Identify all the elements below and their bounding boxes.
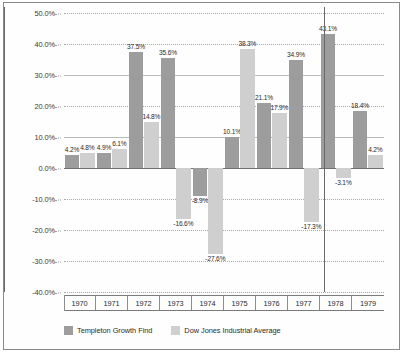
x-axis-tick-label: 1972 bbox=[135, 299, 151, 308]
legend-swatch bbox=[171, 326, 180, 335]
bar[interactable]: 4.9% bbox=[97, 153, 112, 168]
bar-group: 21.1%17.9% bbox=[256, 13, 288, 292]
bar-group: 34.9%-17.3% bbox=[288, 13, 320, 292]
bar-value-label: 37.5% bbox=[127, 43, 145, 50]
bar-value-label: -17.3% bbox=[301, 223, 321, 230]
y-axis-tick-label: 0.0% bbox=[39, 164, 55, 173]
bar-value-label: 4.8% bbox=[80, 144, 94, 151]
y-axis-tick-label: 10.0% bbox=[35, 133, 55, 142]
bar-value-label: 35.6% bbox=[159, 49, 177, 56]
x-axis-tick-1978: 1978 bbox=[320, 296, 352, 310]
bar[interactable]: 18.4% bbox=[353, 111, 368, 168]
legend-swatch bbox=[64, 326, 73, 335]
bar[interactable]: 14.8% bbox=[144, 122, 159, 168]
x-axis-tick-1970: 1970 bbox=[64, 296, 96, 310]
bar-group: 37.5%14.8% bbox=[128, 13, 160, 292]
y-tick-dash bbox=[55, 199, 61, 200]
legend-item[interactable]: Templeton Growth Find bbox=[64, 326, 152, 335]
bar[interactable]: 10.1% bbox=[225, 137, 240, 168]
y-axis-tick-label: 40.0% bbox=[35, 40, 55, 49]
right-axis-spine bbox=[324, 7, 325, 292]
bar-value-label: 21.1% bbox=[255, 94, 273, 101]
bar-group: 18.4%4.2% bbox=[352, 13, 384, 292]
y-tick-dash bbox=[55, 75, 61, 76]
bar[interactable]: 38.3% bbox=[240, 49, 255, 168]
y-tick-dash bbox=[55, 44, 61, 45]
y-axis-tick-label: -30.0% bbox=[32, 257, 55, 266]
bar-value-label: 43.1% bbox=[319, 25, 337, 32]
bar[interactable]: 35.6% bbox=[161, 58, 176, 168]
gridline bbox=[64, 292, 384, 293]
legend-label: Dow Jones Industrial Average bbox=[184, 326, 280, 335]
y-tick-dash bbox=[55, 261, 61, 262]
x-axis-tick-1975: 1975 bbox=[224, 296, 256, 310]
legend-item[interactable]: Dow Jones Industrial Average bbox=[171, 326, 280, 335]
bar[interactable]: -17.3% bbox=[304, 168, 319, 222]
bar[interactable]: -8.9% bbox=[193, 168, 208, 196]
bar-group: 10.1%38.3% bbox=[224, 13, 256, 292]
bar[interactable]: 37.5% bbox=[129, 52, 144, 168]
bar-value-label: 14.8% bbox=[142, 113, 160, 120]
y-tick-dash bbox=[55, 168, 61, 169]
bar-group: 4.2%4.8% bbox=[64, 13, 96, 292]
bar[interactable]: 4.2% bbox=[65, 155, 80, 168]
bar-value-label: -3.1% bbox=[335, 179, 351, 186]
x-axis-tick-label: 1977 bbox=[295, 299, 311, 308]
x-axis-tick-1974: 1974 bbox=[192, 296, 224, 310]
bar-value-label: 18.4% bbox=[351, 102, 369, 109]
x-axis-tick-1977: 1977 bbox=[288, 296, 320, 310]
x-axis-tick-1972: 1972 bbox=[128, 296, 160, 310]
y-tick-dash bbox=[55, 106, 61, 107]
bar[interactable]: 34.9% bbox=[289, 60, 304, 168]
bar-value-label: -16.6% bbox=[173, 220, 193, 227]
x-axis-tick-label: 1978 bbox=[327, 299, 343, 308]
y-axis-tick-label: -40.0% bbox=[32, 288, 55, 297]
bar[interactable]: 43.1% bbox=[321, 34, 336, 168]
y-axis-spine bbox=[4, 7, 5, 292]
y-axis-tick-label: 20.0% bbox=[35, 102, 55, 111]
chart-legend: Templeton Growth FindDow Jones Industria… bbox=[64, 323, 394, 337]
bar-value-label: 34.9% bbox=[287, 51, 305, 58]
bar[interactable]: 4.2% bbox=[368, 155, 383, 168]
y-axis-tick-label: -10.0% bbox=[32, 195, 55, 204]
y-axis-labels: 50.0%40.0%30.0%20.0%10.0%0.0%-10.0%-20.0… bbox=[4, 13, 62, 292]
bar-value-label: 17.9% bbox=[270, 104, 288, 111]
x-axis-tick-label: 1971 bbox=[103, 299, 119, 308]
x-axis-tick-label: 1974 bbox=[199, 299, 215, 308]
x-axis-tick-1971: 1971 bbox=[96, 296, 128, 310]
bar[interactable]: 17.9% bbox=[272, 113, 287, 168]
x-axis-left-cap bbox=[64, 295, 65, 311]
chart-figure: 50.0%40.0%30.0%20.0%10.0%0.0%-10.0%-20.0… bbox=[3, 2, 400, 350]
x-axis-tick-label: 1976 bbox=[263, 299, 279, 308]
x-axis-band: 1970197119721973197419751976197719781979 bbox=[64, 295, 384, 311]
y-tick-dash bbox=[55, 137, 61, 138]
y-axis-tick-label: 50.0% bbox=[35, 9, 55, 18]
y-tick-dash bbox=[55, 230, 61, 231]
x-axis-tick-1979: 1979 bbox=[352, 296, 384, 310]
bar[interactable]: 6.1% bbox=[112, 149, 127, 168]
bar-series-container: 4.2%4.8%4.9%6.1%37.5%14.8%35.6%-16.6%-8.… bbox=[64, 13, 384, 292]
bar-value-label: 10.1% bbox=[223, 128, 241, 135]
x-axis-tick-label: 1975 bbox=[231, 299, 247, 308]
y-axis-tick-label: 30.0% bbox=[35, 71, 55, 80]
x-axis-tick-label: 1970 bbox=[71, 299, 87, 308]
bar[interactable]: 4.8% bbox=[80, 153, 95, 168]
bar-value-label: -27.6% bbox=[205, 255, 225, 262]
bar[interactable]: -3.1% bbox=[336, 168, 351, 178]
bar-value-label: 4.2% bbox=[65, 146, 79, 153]
x-axis-tick-1973: 1973 bbox=[160, 296, 192, 310]
bar[interactable]: 21.1% bbox=[257, 103, 272, 168]
bar-group: -8.9%-27.6% bbox=[192, 13, 224, 292]
y-axis-tick-label: -20.0% bbox=[32, 226, 55, 235]
plot-area: 4.2%4.8%4.9%6.1%37.5%14.8%35.6%-16.6%-8.… bbox=[64, 13, 384, 292]
bar-group: 35.6%-16.6% bbox=[160, 13, 192, 292]
bar[interactable]: -16.6% bbox=[176, 168, 191, 219]
x-axis-tick-label: 1979 bbox=[360, 299, 376, 308]
bar-value-label: 38.3% bbox=[238, 40, 256, 47]
bar[interactable]: -27.6% bbox=[208, 168, 223, 254]
y-tick-dash bbox=[55, 13, 61, 14]
bar-value-label: 4.9% bbox=[97, 144, 111, 151]
bar-value-label: 4.2% bbox=[368, 146, 382, 153]
legend-label: Templeton Growth Find bbox=[77, 326, 152, 335]
y-tick-dash bbox=[55, 292, 61, 293]
